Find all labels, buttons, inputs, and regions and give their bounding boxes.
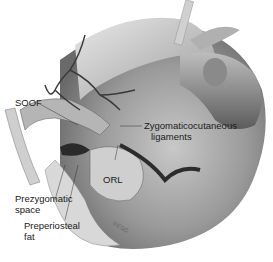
label-zygomaticocutaneous: Zygomaticocutaneous [144,120,237,131]
label-fat: fat [24,231,35,242]
nostril-highlight [203,58,227,86]
label-orl: ORL [103,174,123,185]
label-space: space [15,204,40,215]
label-prezygomatic: Prezygomatic [15,193,73,204]
anatomy-illustration: SOOF Zygomaticocutaneous ligaments ORL P… [0,0,273,262]
label-ligaments: ligaments [151,131,192,142]
label-preperiosteal: Preperiosteal [24,220,80,231]
label-soof: SOOF [15,97,42,108]
